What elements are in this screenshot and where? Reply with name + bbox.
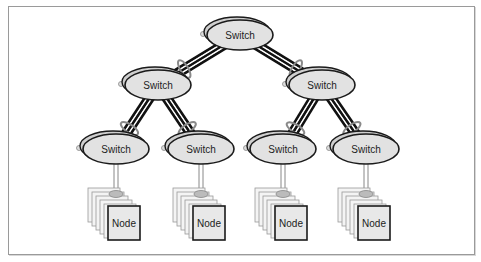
switch-edge-1: Switch bbox=[77, 131, 150, 164]
node-label: Node bbox=[362, 218, 386, 229]
node-stacks-layer: NodeNodeNodeNode bbox=[88, 164, 390, 240]
cable-connector-icon bbox=[359, 191, 373, 198]
fat-tree-diagram: NodeNodeNodeNode SwitchSwitchSwitchSwitc… bbox=[0, 0, 481, 262]
switch-agg-left: Switch bbox=[119, 67, 192, 100]
switch-agg-right: Switch bbox=[283, 67, 356, 100]
node-stack-2: Node bbox=[173, 164, 225, 240]
node-stack-4: Node bbox=[338, 164, 390, 240]
switch-label: Switch bbox=[143, 80, 172, 91]
node-label: Node bbox=[197, 218, 221, 229]
switch-label: Switch bbox=[225, 30, 254, 41]
switch-edge-3: Switch bbox=[244, 131, 317, 164]
switch-edge-4: Switch bbox=[327, 131, 400, 164]
switches-layer: SwitchSwitchSwitchSwitchSwitchSwitchSwit… bbox=[77, 17, 400, 164]
node-stack-1: Node bbox=[88, 164, 140, 240]
node-label: Node bbox=[279, 218, 303, 229]
switch-label: Switch bbox=[101, 144, 130, 155]
switch-label: Switch bbox=[186, 144, 215, 155]
switch-edge-2: Switch bbox=[162, 131, 235, 164]
switch-label: Switch bbox=[268, 144, 297, 155]
switch-label: Switch bbox=[307, 80, 336, 91]
switch-root: Switch bbox=[201, 17, 274, 50]
cable-connector-icon bbox=[194, 191, 208, 198]
switch-label: Switch bbox=[351, 144, 380, 155]
node-stack-3: Node bbox=[255, 164, 307, 240]
cable-connector-icon bbox=[109, 191, 123, 198]
cable-connector-icon bbox=[276, 191, 290, 198]
node-label: Node bbox=[112, 218, 136, 229]
